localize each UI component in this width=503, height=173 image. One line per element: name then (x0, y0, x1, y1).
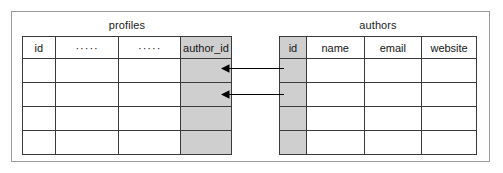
cell-profiles-col3 (119, 83, 181, 107)
table-row (280, 83, 477, 107)
cell-authors-email (364, 131, 422, 155)
cell-profiles-author-id (181, 59, 232, 83)
table-row (23, 107, 232, 131)
table-profiles: id ····· ····· author_id (22, 36, 232, 155)
cell-profiles-col3 (119, 131, 181, 155)
table-row (280, 131, 477, 155)
table-group-profiles: profiles id ····· ····· author_id (22, 12, 232, 155)
table-title-authors: authors (279, 12, 477, 33)
cell-profiles-col3 (119, 107, 181, 131)
cell-authors-website (422, 59, 477, 83)
cell-profiles-col2 (55, 107, 119, 131)
cell-profiles-author-id (181, 83, 232, 107)
column-header-authors-name: name (306, 37, 364, 59)
table-title-profiles: profiles (22, 12, 232, 33)
table-header-row-profiles: id ····· ····· author_id (23, 37, 232, 59)
cell-authors-website (422, 83, 477, 107)
table-row (280, 107, 477, 131)
cell-authors-id (280, 107, 307, 131)
cell-authors-name (306, 107, 364, 131)
cell-profiles-col2 (55, 83, 119, 107)
cell-authors-email (364, 107, 422, 131)
column-header-profiles-author-id: author_id (181, 37, 232, 59)
cell-profiles-col2 (55, 59, 119, 83)
table-row (23, 59, 232, 83)
column-header-profiles-id: id (23, 37, 56, 59)
column-header-authors-website: website (422, 37, 477, 59)
column-header-profiles-ellipsis-2: ····· (119, 37, 181, 59)
cell-profiles-author-id (181, 107, 232, 131)
column-header-profiles-ellipsis-1: ····· (55, 37, 119, 59)
table-header-row-authors: id name email website (280, 37, 477, 59)
cell-profiles-id (23, 83, 56, 107)
cell-authors-email (364, 59, 422, 83)
cell-profiles-col2 (55, 131, 119, 155)
table-row (280, 59, 477, 83)
er-diagram: profiles id ····· ····· author_id (0, 0, 503, 173)
cell-profiles-col3 (119, 59, 181, 83)
table-row (23, 83, 232, 107)
cell-profiles-id (23, 59, 56, 83)
cell-profiles-id (23, 107, 56, 131)
er-diagram-frame: profiles id ····· ····· author_id (11, 11, 490, 162)
cell-authors-name (306, 131, 364, 155)
cell-authors-name (306, 83, 364, 107)
cell-authors-id (280, 83, 307, 107)
cell-profiles-author-id (181, 131, 232, 155)
table-row (23, 131, 232, 155)
cell-authors-website (422, 107, 477, 131)
cell-profiles-id (23, 131, 56, 155)
column-header-authors-id: id (280, 37, 307, 59)
table-group-authors: authors id name email website (279, 12, 477, 155)
table-authors: id name email website (279, 36, 477, 155)
cell-authors-website (422, 131, 477, 155)
cell-authors-id (280, 131, 307, 155)
cell-authors-name (306, 59, 364, 83)
column-header-authors-email: email (364, 37, 422, 59)
cell-authors-email (364, 83, 422, 107)
cell-authors-id (280, 59, 307, 83)
